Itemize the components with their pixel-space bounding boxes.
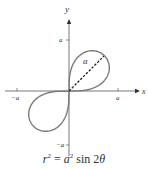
x-tick-label-pos: a [116,94,120,102]
y-tick-label-neg: −a [56,141,65,149]
eq-angle: θ [99,152,105,166]
plot-canvas: y x −a a a −a a [0,0,148,170]
x-axis-label: x [141,87,146,96]
eq-fn: sin 2 [76,152,99,166]
radius-label: a [83,56,88,66]
eq-equals: = [54,152,61,166]
x-tick-label-neg: −a [11,94,20,102]
y-axis-label: y [64,4,69,14]
eq-rhs-exp: 2 [70,152,74,160]
y-tick-label-pos: a [59,36,63,44]
equation-caption: r2 = a2 sin 2θ [0,152,148,167]
eq-lhs-exp: 2 [47,152,51,160]
lemniscate-figure: y x −a a a −a a r2 = a2 sin 2θ [0,0,148,170]
